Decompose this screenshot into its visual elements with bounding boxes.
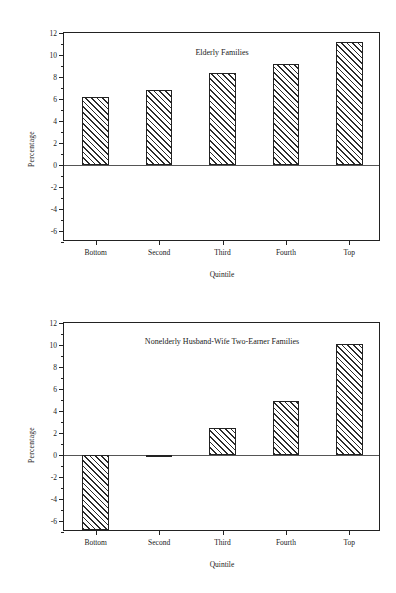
y-axis-tick: [59, 121, 64, 122]
y-axis-tick-label: 4: [53, 117, 57, 126]
y-axis-tick-label: 6: [53, 95, 57, 104]
x-axis-tick-label: Bottom: [84, 538, 107, 547]
y-axis-label: Percentage: [27, 427, 36, 463]
chart-panel-elderly: Percentage 121086420-2-4-6BottomSecondTh…: [0, 8, 396, 290]
bar: [209, 73, 236, 165]
y-axis-tick-label: 8: [53, 363, 57, 372]
y-axis-minor-tick: [61, 444, 64, 445]
x-axis-tick-label: Top: [344, 538, 356, 547]
y-axis-minor-tick: [61, 466, 64, 467]
chart-area-elderly: Percentage 121086420-2-4-6BottomSecondTh…: [0, 8, 396, 290]
y-axis-tick: [59, 143, 64, 144]
y-axis-tick-label: 10: [50, 341, 58, 350]
y-axis-tick: [59, 231, 64, 232]
y-axis-tick: [59, 209, 64, 210]
chart-area-nonelderly: Percentage 121086420-2-4-6BottomSecondTh…: [0, 300, 396, 590]
y-axis-minor-tick: [61, 488, 64, 489]
y-axis-tick-label: 8: [53, 73, 57, 82]
x-axis-tick-label: Bottom: [84, 248, 107, 257]
y-axis-tick-label: -2: [51, 183, 57, 192]
y-axis-minor-tick: [61, 44, 64, 45]
y-axis-minor-tick: [61, 176, 64, 177]
y-axis-tick-label: -6: [51, 227, 57, 236]
x-axis-label: Quintile: [210, 560, 235, 569]
y-axis-tick-label: -4: [51, 495, 57, 504]
y-axis-minor-tick: [61, 510, 64, 511]
y-axis-tick: [59, 345, 64, 346]
bar: [336, 42, 363, 165]
y-axis-tick-label: 2: [53, 429, 57, 438]
y-axis-tick: [59, 433, 64, 434]
x-axis-tick: [96, 240, 97, 245]
y-axis-minor-tick: [61, 198, 64, 199]
bar: [82, 455, 109, 530]
y-axis-label: Percentage: [27, 131, 36, 167]
y-axis-tick: [59, 323, 64, 324]
y-axis-tick-label: 4: [53, 407, 57, 416]
y-axis-tick: [59, 165, 64, 166]
y-axis-tick: [59, 33, 64, 34]
y-axis-minor-tick: [61, 422, 64, 423]
y-axis-tick-label: -2: [51, 473, 57, 482]
y-axis-minor-tick: [61, 378, 64, 379]
y-axis-minor-tick: [61, 400, 64, 401]
bar: [146, 90, 173, 165]
x-axis-tick: [286, 530, 287, 535]
y-axis-tick: [59, 99, 64, 100]
x-axis-tick-label: Third: [214, 538, 231, 547]
y-axis-minor-tick: [61, 334, 64, 335]
y-axis-tick-label: -6: [51, 517, 57, 526]
y-axis-minor-tick: [61, 532, 64, 533]
bar: [209, 428, 236, 456]
y-axis-tick-label: 12: [50, 29, 58, 38]
x-axis-tick-label: Third: [214, 248, 231, 257]
y-axis-tick: [59, 389, 64, 390]
y-axis-minor-tick: [61, 154, 64, 155]
y-axis-tick-label: 6: [53, 385, 57, 394]
x-axis-tick: [349, 530, 350, 535]
y-axis-tick-label: -4: [51, 205, 57, 214]
x-axis-label: Quintile: [210, 270, 235, 279]
y-axis-minor-tick: [61, 132, 64, 133]
y-axis-tick: [59, 55, 64, 56]
y-axis-tick-label: 2: [53, 139, 57, 148]
x-axis-tick: [159, 240, 160, 245]
zero-line: [64, 455, 379, 456]
x-axis-tick-label: Second: [148, 538, 170, 547]
chart-panel-nonelderly: Percentage 121086420-2-4-6BottomSecondTh…: [0, 300, 396, 590]
x-axis-tick: [286, 240, 287, 245]
chart-title-elderly: Elderly Families: [195, 48, 248, 57]
y-axis-tick-label: 0: [53, 161, 57, 170]
bar: [82, 97, 109, 165]
y-axis-minor-tick: [61, 356, 64, 357]
plot-box-elderly: 121086420-2-4-6BottomSecondThirdFourthTo…: [63, 32, 380, 241]
y-axis-minor-tick: [61, 110, 64, 111]
y-axis-tick: [59, 521, 64, 522]
y-axis-tick: [59, 367, 64, 368]
figure-page: Percentage 121086420-2-4-6BottomSecondTh…: [0, 0, 396, 593]
y-axis-tick-label: 0: [53, 451, 57, 460]
x-axis-tick-label: Second: [148, 248, 170, 257]
x-axis-tick: [223, 530, 224, 535]
bar: [336, 344, 363, 455]
bar: [273, 64, 300, 165]
x-axis-tick-label: Fourth: [276, 538, 296, 547]
bar: [273, 401, 300, 455]
plot-box-nonelderly: 121086420-2-4-6BottomSecondThirdFourthTo…: [63, 322, 380, 531]
x-axis-tick-label: Top: [344, 248, 356, 257]
y-axis-tick: [59, 477, 64, 478]
x-axis-tick: [96, 530, 97, 535]
y-axis-tick: [59, 187, 64, 188]
y-axis-minor-tick: [61, 66, 64, 67]
y-axis-minor-tick: [61, 88, 64, 89]
y-axis-tick-label: 12: [50, 319, 58, 328]
y-axis-minor-tick: [61, 220, 64, 221]
y-axis-tick: [59, 411, 64, 412]
y-axis-tick-label: 10: [50, 51, 58, 60]
y-axis-tick: [59, 499, 64, 500]
zero-line: [64, 165, 379, 166]
x-axis-tick: [349, 240, 350, 245]
y-axis-tick: [59, 455, 64, 456]
bar: [146, 455, 173, 457]
y-axis-tick: [59, 77, 64, 78]
